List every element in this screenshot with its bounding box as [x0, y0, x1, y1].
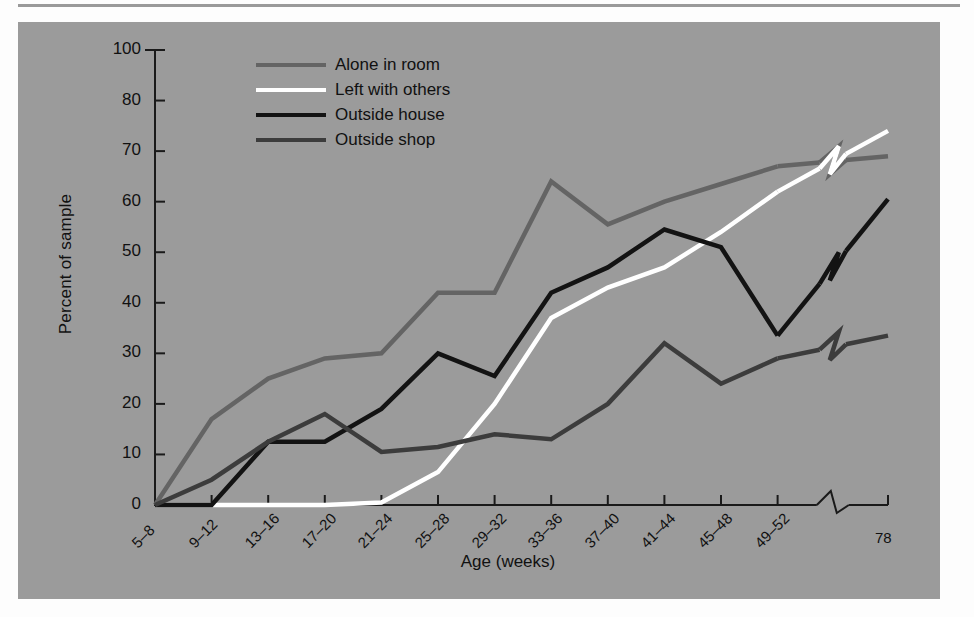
y-axis-tick-label: 10	[81, 443, 141, 463]
legend-swatch-line-icon	[256, 63, 326, 67]
series-line-after-break	[846, 131, 888, 154]
figure-page: 01020304050607080100 5–89–1213–1617–2021…	[0, 0, 974, 617]
series-line-main	[155, 230, 778, 506]
y-axis-tick-label: 100	[81, 39, 141, 59]
line-chart-canvas	[18, 22, 940, 599]
legend-swatch-line-icon	[256, 138, 326, 142]
y-axis-tick-label: 40	[81, 292, 141, 312]
series-line-before-break	[778, 284, 820, 336]
series-line-after-break	[846, 199, 888, 251]
series-line-main	[155, 192, 778, 505]
x-axis-title: Age (weeks)	[348, 552, 668, 572]
legend-item: Outside shop	[256, 127, 450, 152]
y-axis-tick-label: 80	[81, 90, 141, 110]
legend-item: Alone in room	[256, 52, 450, 77]
legend-item-label: Alone in room	[335, 56, 440, 73]
series-line-before-break	[778, 350, 820, 359]
series-break-symbol	[820, 251, 846, 284]
legend-item: Outside house	[256, 102, 450, 127]
chart-legend: Alone in roomLeft with othersOutside hou…	[256, 52, 450, 152]
series-left-with-others	[155, 131, 888, 505]
legend-item-label: Outside house	[335, 106, 445, 123]
y-axis-tick-label: 60	[81, 191, 141, 211]
x-axis-tick-label: 78	[875, 529, 892, 546]
plot-area: 01020304050607080100 5–89–1213–1617–2021…	[18, 22, 940, 599]
series-outside-house	[155, 199, 888, 505]
series-line-before-break	[778, 169, 820, 192]
axis-break-mask	[817, 504, 849, 508]
y-axis-tick-label: 70	[81, 140, 141, 160]
y-axis-tick-label: 30	[81, 342, 141, 362]
legend-item-label: Outside shop	[335, 131, 435, 148]
legend-item-label: Left with others	[335, 81, 450, 98]
series-line-after-break	[846, 336, 888, 345]
chart-panel: 01020304050607080100 5–89–1213–1617–2021…	[18, 22, 940, 599]
y-axis-tick-label: 0	[81, 494, 141, 514]
y-axis-title: Percent of sample	[56, 154, 76, 374]
x-axis-break-symbol	[817, 491, 849, 513]
series-line-main	[155, 343, 778, 505]
legend-swatch-line-icon	[256, 113, 326, 117]
series-line-after-break	[846, 156, 888, 160]
y-axis-tick-label: 50	[81, 241, 141, 261]
top-horizontal-rule	[18, 4, 960, 7]
series-alone-in-room	[155, 146, 888, 505]
series-layer	[155, 131, 888, 505]
series-break-symbol	[820, 332, 846, 360]
y-axis-tick-label: 20	[81, 393, 141, 413]
axis-break-layer	[817, 491, 849, 513]
legend-item: Left with others	[256, 77, 450, 102]
series-outside-shop	[155, 332, 888, 505]
series-line-before-break	[778, 162, 820, 166]
legend-swatch-line-icon	[256, 88, 326, 92]
